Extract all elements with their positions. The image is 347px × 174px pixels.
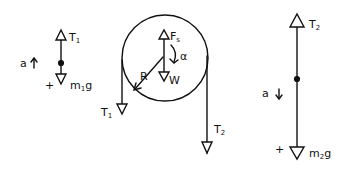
mass1-weight-arrowhead-icon	[56, 74, 66, 84]
mass2-sign-label: +	[275, 143, 284, 156]
pulley-weight-label: W	[169, 74, 180, 87]
mass1-point-icon	[59, 61, 64, 66]
pulley-fbd	[117, 15, 212, 153]
pulley-support-arrowhead-icon	[159, 30, 169, 39]
pulley-right-tension-label: T2	[213, 123, 225, 137]
pulley-left-tension-label: T1	[100, 106, 112, 120]
pulley-alpha-label: α	[180, 50, 187, 63]
mass1-sign-label: +	[45, 79, 54, 92]
mass2-tension-label: T2	[308, 18, 320, 32]
mass1-accel-label: a	[20, 57, 27, 70]
pulley-alpha-arc-icon	[171, 45, 175, 62]
pulley-right-tension-arrowhead-icon	[202, 142, 212, 153]
pulley-left-tension-arrowhead-icon	[117, 104, 127, 114]
free-body-diagram: T1 m1g a + Fs W α R T1 T2 T2 m2g a +	[0, 0, 347, 174]
mass1-fbd	[31, 30, 66, 84]
mass2-point-icon	[295, 77, 300, 82]
mass2-tension-arrowhead-icon	[290, 14, 304, 27]
mass2-weight-label: m2g	[309, 147, 331, 161]
pulley-force-label: Fs	[170, 30, 180, 44]
mass1-tension-label: T1	[68, 31, 80, 45]
mass2-fbd	[276, 14, 304, 159]
pulley-radius-label: R	[140, 70, 148, 83]
mass2-accel-label: a	[262, 87, 269, 100]
pulley-weight-arrowhead-icon	[159, 72, 169, 81]
mass1-tension-arrowhead-icon	[56, 30, 66, 40]
mass1-weight-label: m1g	[70, 79, 92, 93]
mass2-weight-arrowhead-icon	[290, 147, 304, 159]
